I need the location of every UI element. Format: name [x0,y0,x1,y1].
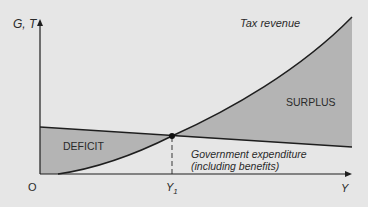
surplus-label: SURPLUS [286,96,336,108]
government-expenditure-label: Government expenditure (including benefi… [191,148,307,172]
gov-label-line1: Government expenditure [191,148,307,160]
y-axis-label: G, T [13,17,36,31]
x-axis-arrow-icon [345,171,352,177]
tax-revenue-label: Tax revenue [240,17,300,29]
deficit-label: DEFICIT [63,140,104,152]
y1-subscript: 1 [173,187,177,196]
intersection-point [169,133,175,139]
y1-label: Y1 [166,181,178,196]
origin-label: O [28,181,37,193]
surplus-region [172,17,352,147]
x-axis-label: Y [341,182,348,194]
gov-label-line2: (including benefits) [191,160,307,172]
y-axis-arrow-icon [37,19,43,26]
